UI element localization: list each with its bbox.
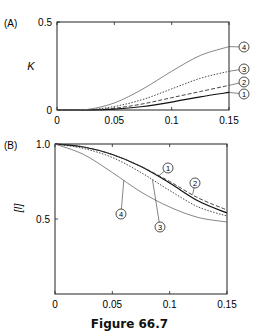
x-tick-label: 0.15	[219, 115, 239, 126]
curve-label: 4	[242, 43, 246, 52]
curve-label: 3	[158, 223, 162, 232]
curve-label: 1	[166, 164, 170, 173]
curve-label: 2	[242, 78, 246, 87]
x-tick-label: 0.1	[163, 299, 177, 310]
series-line-2	[55, 144, 227, 210]
figure-caption: Figure 66.7	[0, 317, 259, 331]
curve-label: 2	[193, 179, 197, 188]
x-tick-label: 0.05	[103, 299, 123, 310]
label-leader	[152, 180, 160, 227]
series-line-3	[57, 71, 229, 110]
series-line-1	[55, 144, 227, 213]
series-line-3	[55, 144, 227, 216]
y-axis-label: [I]	[13, 204, 24, 214]
curve-label: 1	[242, 90, 246, 99]
x-tick-label: 0.05	[105, 115, 125, 126]
y-tick-label: 0.5	[38, 17, 52, 28]
series-line-4	[57, 47, 229, 111]
curve-label: 3	[242, 65, 246, 74]
x-tick-label: 0.1	[165, 115, 179, 126]
panel-label: (A)	[4, 18, 17, 29]
y-tick-label: 0.5	[36, 214, 50, 225]
y-tick-label: 0	[46, 105, 52, 116]
series-line-4	[55, 144, 227, 222]
x-tick-label: 0	[52, 299, 58, 310]
y-tick-label: 1.0	[36, 139, 50, 150]
series-line-1	[57, 92, 229, 110]
x-tick-label: 0	[54, 115, 60, 126]
y-axis-label: K	[27, 60, 35, 72]
x-tick-label: 0.15	[217, 299, 237, 310]
curve-label: 4	[119, 210, 123, 219]
figure-chart: (A)K00.050.10.1500.51234(B)[I]00.050.10.…	[0, 0, 259, 336]
panel-label: (B)	[4, 140, 17, 151]
